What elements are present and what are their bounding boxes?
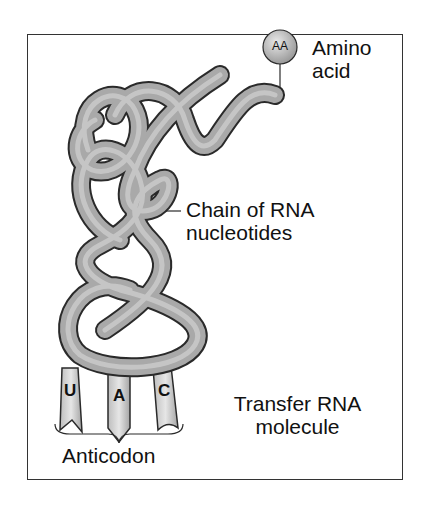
base-letter-c: C bbox=[158, 380, 170, 402]
amino-acid-badge-text: AA bbox=[263, 39, 297, 53]
amino-acid-label-line1: Amino bbox=[312, 37, 372, 59]
base-letter-a: A bbox=[113, 385, 125, 407]
chain-label-line1: Chain of RNA bbox=[186, 199, 314, 221]
base-letter-u: U bbox=[64, 380, 76, 402]
chain-label-line2: nucleotides bbox=[186, 222, 292, 244]
base-flag-a bbox=[108, 372, 130, 442]
amino-acid-label-line2: acid bbox=[312, 60, 351, 82]
trna-title-line1: Transfer RNA bbox=[220, 393, 375, 415]
anticodon-label: Anticodon bbox=[62, 445, 155, 467]
trna-title-line2: molecule bbox=[220, 416, 375, 438]
